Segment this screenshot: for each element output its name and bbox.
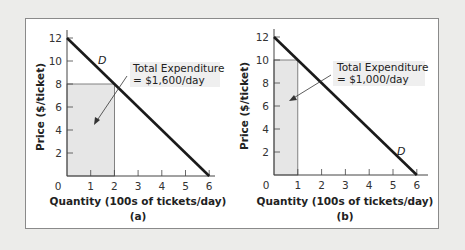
x-tick-b: 0 xyxy=(263,179,270,191)
y-tick-b: 4 xyxy=(262,123,269,135)
panel-label-a: (a) xyxy=(130,210,147,222)
expenditure-rect-a xyxy=(67,84,114,176)
y-axis-title-a: Price ($/ticket) xyxy=(34,63,46,151)
x-tick-b: 5 xyxy=(390,179,397,191)
y-tick-a: 6 xyxy=(55,101,62,113)
x-axis-title-b: Quantity (100s of tickets/day) xyxy=(257,195,434,207)
y-tick-a: 8 xyxy=(55,78,62,90)
y-tick-b: 2 xyxy=(262,146,269,158)
panel-a: 2 4 6 8 10 12 0 1 2 3 4 5 6 D Total Expe… xyxy=(34,30,226,222)
annotation-line1-a: Total Expenditure xyxy=(132,62,224,74)
x-tick-a: 1 xyxy=(87,180,94,192)
y-tick-a: 10 xyxy=(49,55,62,67)
demand-label-b: D xyxy=(397,145,405,158)
x-tick-a: 0 xyxy=(55,180,62,192)
annotation-line2-b: = $1,000/day xyxy=(337,73,409,85)
x-tick-a: 6 xyxy=(206,180,213,192)
y-tick-b: 12 xyxy=(256,31,269,43)
x-tick-a: 4 xyxy=(158,180,165,192)
y-tick-a: 12 xyxy=(49,32,62,44)
annotation-line1-b: Total Expenditure xyxy=(336,61,428,73)
x-axis-title-a: Quantity (100s of tickets/day) xyxy=(50,195,227,207)
expenditure-rect-b xyxy=(274,60,298,175)
demand-label-a: D xyxy=(98,54,106,67)
x-tick-a: 2 xyxy=(111,180,118,192)
y-tick-a: 2 xyxy=(55,147,62,159)
chart-svg: 2 4 6 8 10 12 0 1 2 3 4 5 6 D Total Expe… xyxy=(0,0,465,250)
y-tick-b: 6 xyxy=(262,100,269,112)
x-tick-b: 6 xyxy=(413,179,420,191)
x-tick-a: 3 xyxy=(135,180,142,192)
x-tick-b: 2 xyxy=(318,179,325,191)
y-tick-a: 4 xyxy=(55,124,62,136)
x-tick-b: 4 xyxy=(366,179,373,191)
x-tick-b: 3 xyxy=(342,179,349,191)
x-tick-a: 5 xyxy=(182,180,189,192)
y-tick-b: 10 xyxy=(256,54,269,66)
x-tick-b: 1 xyxy=(294,179,301,191)
y-tick-b: 8 xyxy=(262,77,269,89)
panel-label-b: (b) xyxy=(336,210,353,222)
panel-b: 2 4 6 8 10 12 0 1 2 3 4 5 6 D Total Expe… xyxy=(238,29,433,222)
annotation-line2-a: = $1,600/day xyxy=(133,74,205,86)
y-axis-title-b: Price ($/ticket) xyxy=(238,62,250,150)
